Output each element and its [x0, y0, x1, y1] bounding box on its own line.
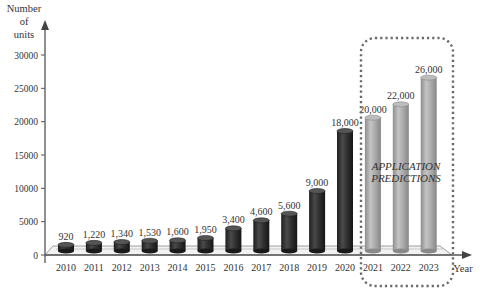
x-tick-label: 2020 [335, 262, 355, 273]
x-tick-label: 2018 [279, 262, 299, 273]
bar-2013 [142, 238, 158, 253]
bar-value-label: 5,600 [278, 200, 301, 211]
bar-2011 [86, 240, 102, 253]
x-tick-label: 2021 [363, 262, 383, 273]
bar-value-label: 22,000 [387, 90, 415, 101]
y-axis-label: Number of units [7, 3, 42, 40]
bar-2018 [281, 211, 297, 253]
y-tick-label: 10000 [14, 184, 38, 194]
y-tick-label: 30000 [14, 51, 38, 61]
y-axis-arrow-icon [41, 20, 49, 30]
y-axis-label-line-3: units [14, 29, 34, 40]
x-tick-label: 2015 [196, 262, 216, 273]
x-tick-label: 2011 [84, 262, 104, 273]
prediction-annotation-line-1: APPLICATION [371, 160, 441, 172]
bar-value-label: 920 [59, 231, 74, 242]
bar-2020 [337, 129, 353, 254]
bar-2016 [225, 226, 241, 254]
y-tick-label: 25000 [14, 84, 38, 94]
bar-value-label: 1,340 [111, 228, 134, 239]
bar-2021 [365, 115, 381, 253]
bars: 9201,2201,3401,5301,6001,9503,4004,6005,… [58, 64, 442, 254]
chart-floor [45, 246, 452, 255]
y-tick-label: 20000 [14, 117, 38, 127]
bar-2019 [309, 189, 325, 254]
bar-value-label: 1,950 [194, 224, 217, 235]
x-tick-label: 2012 [112, 262, 132, 273]
x-tick-label: 2013 [140, 262, 160, 273]
x-tick-label: 2017 [251, 262, 271, 273]
y-axis-ticks: 050001000015000200002500030000 [14, 51, 45, 261]
bar-2015 [198, 236, 214, 254]
bar-value-label: 3,400 [222, 214, 245, 225]
x-tick-label: 2023 [419, 262, 439, 273]
bar-2010 [58, 242, 74, 253]
bar-2012 [114, 240, 130, 254]
bar-value-label: 26,000 [415, 64, 443, 75]
x-tick-label: 2014 [168, 262, 188, 273]
bar-value-label: 1,530 [138, 227, 161, 238]
x-axis-label: Year [453, 263, 473, 274]
bar-value-label: 1,220 [83, 229, 106, 240]
bar-value-label: 4,600 [250, 206, 273, 217]
x-tick-label: 2019 [307, 262, 327, 273]
y-tick-label: 0 [33, 251, 38, 261]
x-tick-label: 2022 [391, 262, 411, 273]
prediction-annotation-line-2: PREDICTIONS [370, 172, 441, 184]
y-tick-label: 5000 [19, 217, 38, 227]
bar-2014 [170, 238, 186, 254]
x-tick-label: 2016 [223, 262, 243, 273]
y-axis-label-line-2: of [20, 16, 29, 27]
bar-chart: Number of units 050001000015000200002500… [0, 0, 481, 297]
x-axis-ticks: 2010201120122013201420152016201720182019… [56, 262, 439, 273]
bar-2017 [253, 218, 269, 254]
y-axis-label-line-1: Number [7, 3, 42, 14]
x-tick-label: 2010 [56, 262, 76, 273]
bar-value-label: 9,000 [306, 177, 329, 188]
bar-value-label: 1,600 [166, 226, 189, 237]
bar-value-label: 18,000 [331, 117, 359, 128]
x-axis-arrow-icon [462, 251, 472, 259]
y-tick-label: 15000 [14, 151, 38, 161]
bar-value-label: 20,000 [359, 104, 387, 115]
